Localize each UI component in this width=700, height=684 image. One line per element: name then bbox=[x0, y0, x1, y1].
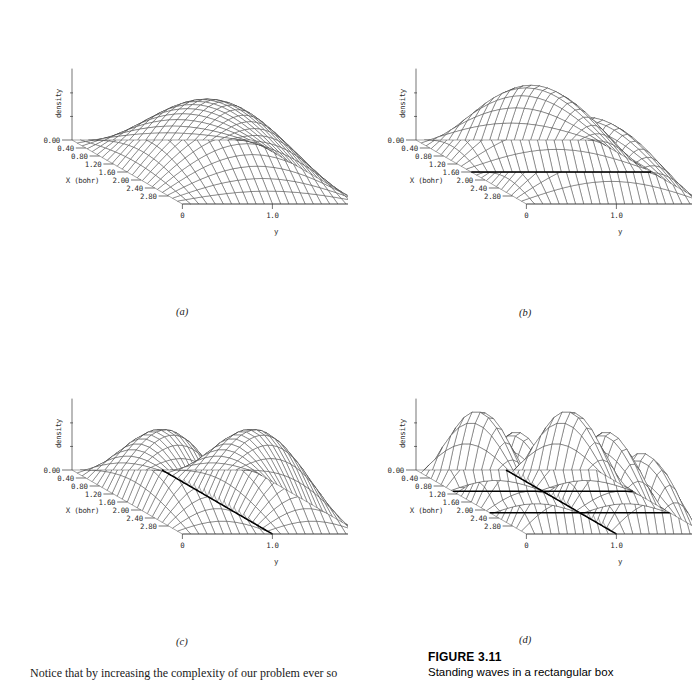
figure-3-11: density0.000.400.801.201.602.002.402.80X… bbox=[0, 0, 700, 645]
svg-text:y: y bbox=[618, 557, 623, 566]
surface-plot-a: density0.000.400.801.201.602.002.402.80X… bbox=[8, 14, 348, 334]
svg-text:1.0: 1.0 bbox=[610, 541, 622, 550]
svg-text:0: 0 bbox=[524, 211, 528, 220]
svg-text:2.80: 2.80 bbox=[484, 522, 501, 531]
svg-text:y: y bbox=[274, 557, 279, 566]
panel-label-a: (a) bbox=[176, 306, 188, 317]
surface-plot-c: density0.000.400.801.201.602.002.402.80X… bbox=[8, 344, 348, 664]
svg-text:density: density bbox=[398, 88, 407, 118]
surface-plot-d: density0.000.400.801.201.602.002.402.80X… bbox=[352, 344, 692, 664]
panel-label-c: (c) bbox=[176, 636, 188, 647]
svg-text:1.0: 1.0 bbox=[266, 211, 278, 220]
panel-label-d: (d) bbox=[519, 634, 531, 645]
svg-text:0: 0 bbox=[524, 541, 528, 550]
svg-text:1.0: 1.0 bbox=[266, 541, 278, 550]
svg-text:2.80: 2.80 bbox=[140, 522, 157, 531]
figure-caption-text: Standing waves in a rectangular box bbox=[428, 665, 690, 679]
panel-label-b: (b) bbox=[519, 307, 531, 318]
svg-text:y: y bbox=[274, 227, 279, 236]
svg-text:y: y bbox=[618, 227, 623, 236]
svg-text:X (bohr): X (bohr) bbox=[66, 506, 99, 515]
svg-text:1.0: 1.0 bbox=[610, 211, 622, 220]
svg-text:X (bohr): X (bohr) bbox=[410, 506, 443, 515]
svg-text:2.80: 2.80 bbox=[140, 192, 157, 201]
figure-caption: FIGURE 3.11 Standing waves in a rectangu… bbox=[428, 650, 690, 679]
surface-plot-b: density0.000.400.801.201.602.002.402.80X… bbox=[352, 14, 692, 334]
svg-text:density: density bbox=[54, 88, 63, 118]
svg-text:density: density bbox=[398, 418, 407, 448]
svg-text:X (bohr): X (bohr) bbox=[66, 176, 99, 185]
body-paragraph: Notice that by increasing the complexity… bbox=[30, 666, 410, 681]
svg-text:0: 0 bbox=[180, 211, 184, 220]
svg-text:X (bohr): X (bohr) bbox=[410, 176, 443, 185]
svg-text:2.80: 2.80 bbox=[484, 192, 501, 201]
svg-text:0: 0 bbox=[180, 541, 184, 550]
svg-text:density: density bbox=[54, 418, 63, 448]
figure-caption-title: FIGURE 3.11 bbox=[428, 650, 690, 664]
